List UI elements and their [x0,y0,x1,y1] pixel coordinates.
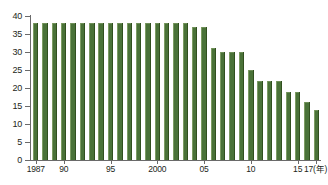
bar [314,110,319,160]
y-axis-tick [25,70,30,71]
bar-highlight [212,48,215,49]
bar-highlight [118,23,121,24]
bar [127,23,132,160]
bar-highlight [43,23,46,24]
bar [61,23,66,160]
bar [183,23,188,160]
bar-highlight [62,23,65,24]
bar-highlight [315,110,318,111]
bar-highlight [137,23,140,24]
bar-highlight [99,23,102,24]
bar-highlight [53,23,56,24]
x-axis-tick-label: 10 [246,165,255,174]
bar-highlight [109,23,112,24]
bar [257,81,262,160]
bar-highlight [146,23,149,24]
bar-highlight [184,23,187,24]
x-axis-tick-label: 05 [200,165,209,174]
bar-highlight [156,23,159,24]
y-axis-tick-label: 40 [0,12,22,21]
x-axis-tick-label: 2000 [148,165,166,174]
bar-highlight [193,27,196,28]
y-axis-tick-label: 25 [0,66,22,75]
y-axis-tick-label: 15 [0,102,22,111]
x-axis-tick-label: 15 [293,165,302,174]
bar [267,81,272,160]
bar [192,27,197,160]
y-axis-tick-label: 10 [0,120,22,129]
y-axis-tick [25,16,30,17]
bar [248,70,253,160]
bar [89,23,94,160]
bar [220,52,225,160]
bar-chart-figure: 0510152025303540 19879095200005101517(年) [0,0,328,185]
bar [145,23,150,160]
y-axis-tick [25,34,30,35]
bar-highlight [34,23,37,24]
x-axis-line [30,160,321,161]
bar-highlight [165,23,168,24]
y-axis-tick [25,106,30,107]
bar-highlight [268,81,271,82]
bar [33,23,38,160]
bar [304,102,309,160]
bar [136,23,141,160]
bar [108,23,113,160]
y-axis-tick-label: 0 [0,156,22,165]
bar [42,23,47,160]
bar-highlight [258,81,261,82]
bar [98,23,103,160]
bar [229,52,234,160]
bar [211,48,216,160]
bar-highlight [71,23,74,24]
y-axis-tick [25,160,30,161]
bar-highlight [230,52,233,53]
y-axis-tick-label: 5 [0,138,22,147]
x-axis-tick-label: 95 [106,165,115,174]
bar [70,23,75,160]
bar-highlight [277,81,280,82]
bar-highlight [240,52,243,53]
x-axis-tick-label: 17(年) [304,165,327,174]
bar [239,52,244,160]
y-axis-tick [25,88,30,89]
bar [276,81,281,160]
bar [155,23,160,160]
bar [201,27,206,160]
y-axis-tick [25,142,30,143]
y-axis-tick-label: 30 [0,48,22,57]
y-axis-tick-label: 20 [0,84,22,93]
bar-highlight [287,92,290,93]
bar-highlight [305,102,308,103]
x-axis-tick-label: 90 [59,165,68,174]
bar-highlight [81,23,84,24]
bar-highlight [128,23,131,24]
bar [173,23,178,160]
bar-highlight [296,92,299,93]
bar [164,23,169,160]
bar-highlight [221,52,224,53]
bar [286,92,291,160]
bar [295,92,300,160]
bar [52,23,57,160]
plot-area [31,16,321,160]
y-axis-tick [25,52,30,53]
y-axis-tick [25,124,30,125]
x-axis-tick-label: 1987 [27,165,45,174]
bar-highlight [202,27,205,28]
bar-highlight [249,70,252,71]
bar-highlight [174,23,177,24]
bar-highlight [90,23,93,24]
bar [80,23,85,160]
bar [117,23,122,160]
y-axis-tick-label: 35 [0,30,22,39]
